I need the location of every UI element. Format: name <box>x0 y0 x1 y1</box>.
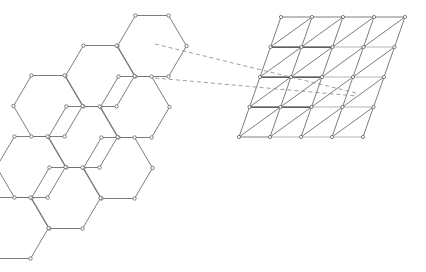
triangular-edge-d1-24 <box>302 17 313 47</box>
triangular-edge-d1-27 <box>270 107 281 137</box>
honeycomb-node-19 <box>150 75 153 78</box>
honeycomb-edge-14 <box>65 106 83 137</box>
honeycomb-node-17 <box>12 104 15 107</box>
triangular-node-12 <box>320 75 323 78</box>
triangular-edge-d2-48 <box>250 77 292 107</box>
honeycomb-node-50 <box>47 226 50 229</box>
honeycomb-node-1 <box>167 14 170 17</box>
triangular-node-4 <box>403 15 406 18</box>
honeycomb-edge-25 <box>100 107 118 138</box>
honeycomb-node-0 <box>134 14 137 17</box>
triangular-edge-d1-25 <box>291 47 302 77</box>
honeycomb-edge-16 <box>14 106 32 137</box>
triangular-edge-d2-45 <box>291 47 333 77</box>
triangular-node-6 <box>300 45 303 48</box>
honeycomb-edge-22 <box>101 107 119 138</box>
honeycomb-edge-28 <box>49 137 67 168</box>
honeycomb-node-44 <box>99 196 102 199</box>
honeycomb-edge-50 <box>31 228 49 259</box>
triangular-node-3 <box>372 15 375 18</box>
honeycomb-edge-41 <box>84 138 102 169</box>
triangular-node-20 <box>237 135 240 138</box>
honeycomb-edge-31 <box>48 137 66 168</box>
honeycomb-edge-8 <box>117 76 135 107</box>
honeycomb-edge-2 <box>169 46 187 77</box>
lattice-diagram-svg <box>0 0 426 272</box>
honeycomb-node-21 <box>150 136 153 139</box>
honeycomb-node-49 <box>29 196 32 199</box>
honeycomb-node-14 <box>81 104 84 107</box>
honeycomb-edge-32 <box>48 167 66 198</box>
triangular-edge-d1-21 <box>260 47 271 77</box>
triangular-edge-d1-39 <box>363 107 374 137</box>
triangular-node-1 <box>310 15 313 18</box>
honeycomb-node-39 <box>133 197 136 200</box>
honeycomb-node-45 <box>81 227 84 230</box>
triangular-edge-d2-41 <box>302 17 344 47</box>
triangular-node-5 <box>269 45 272 48</box>
triangular-edge-d2-46 <box>322 47 364 77</box>
honeycomb-lattice <box>0 16 187 259</box>
honeycomb-node-16 <box>30 135 33 138</box>
honeycomb-node-12 <box>30 74 33 77</box>
honeycomb-node-8 <box>133 74 136 77</box>
triangular-node-22 <box>299 135 302 138</box>
triangular-edge-d2-50 <box>312 77 354 107</box>
triangular-edge-d1-36 <box>395 17 406 47</box>
honeycomb-node-3 <box>167 75 170 78</box>
honeycomb-edge-1 <box>169 16 187 47</box>
triangular-node-17 <box>310 105 313 108</box>
honeycomb-edge-11 <box>66 46 84 77</box>
triangular-node-14 <box>382 75 385 78</box>
honeycomb-node-51 <box>29 257 32 260</box>
honeycomb-node-20 <box>168 105 171 108</box>
honeycomb-edge-44 <box>83 198 101 229</box>
honeycomb-edge-34 <box>0 167 14 198</box>
triangular-edge-d2-54 <box>301 107 343 137</box>
honeycomb-node-33 <box>46 196 49 199</box>
honeycomb-edge-13 <box>65 76 83 107</box>
honeycomb-node-7 <box>115 44 118 47</box>
honeycomb-edge-37 <box>135 138 153 169</box>
triangular-edge-d1-31 <box>301 107 312 137</box>
honeycomb-node-31 <box>46 135 49 138</box>
honeycomb-node-37 <box>133 136 136 139</box>
triangular-node-0 <box>279 15 282 18</box>
honeycomb-lattice-nodes <box>0 14 188 260</box>
honeycomb-edge-40 <box>84 168 102 199</box>
honeycomb-edge-26 <box>100 137 118 168</box>
triangular-edge-d1-35 <box>332 107 343 137</box>
triangular-edge-d1-20 <box>271 17 282 47</box>
triangular-node-21 <box>268 135 271 138</box>
triangular-edge-d2-40 <box>271 17 313 47</box>
triangular-edge-d2-44 <box>260 47 302 77</box>
triangular-edge-d1-32 <box>364 17 375 47</box>
honeycomb-edge-47 <box>32 168 50 199</box>
figure-canvas <box>0 0 426 272</box>
triangular-edge-d1-22 <box>250 77 261 107</box>
honeycomb-node-27 <box>98 166 101 169</box>
honeycomb-node-36 <box>100 136 103 139</box>
honeycomb-node-34 <box>13 196 16 199</box>
honeycomb-edge-46 <box>32 198 50 229</box>
triangular-edge-d1-38 <box>374 77 385 107</box>
triangular-edge-d1-34 <box>343 77 354 107</box>
honeycomb-edge-29 <box>49 107 67 138</box>
honeycomb-edge-5 <box>118 16 136 47</box>
triangular-node-24 <box>361 135 364 138</box>
honeycomb-node-38 <box>151 166 154 169</box>
honeycomb-node-25 <box>98 105 101 108</box>
honeycomb-node-13 <box>63 74 66 77</box>
triangular-edge-d1-37 <box>384 47 395 77</box>
triangular-edge-d2-47 <box>353 47 395 77</box>
triangular-edge-d1-28 <box>333 17 344 47</box>
triangular-node-13 <box>351 75 354 78</box>
triangular-edge-d1-33 <box>353 47 364 77</box>
callout-lower <box>155 78 356 96</box>
honeycomb-edge-38 <box>135 168 153 199</box>
triangular-edge-d1-23 <box>239 107 250 137</box>
honeycomb-node-30 <box>13 135 16 138</box>
honeycomb-edge-35 <box>0 137 14 168</box>
triangular-node-2 <box>341 15 344 18</box>
triangular-edge-d2-55 <box>332 107 374 137</box>
